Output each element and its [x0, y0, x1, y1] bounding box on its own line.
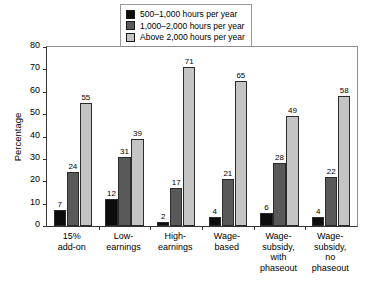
x-axis-tick: [254, 226, 255, 230]
legend-swatch-icon: [126, 10, 135, 19]
chart-legend: 500–1,000 hours per year1,000–2,000 hour…: [120, 4, 252, 47]
plot-frame: Percentage 72455123139217714216562849422…: [46, 46, 358, 227]
bar: [222, 179, 235, 226]
bar: [209, 217, 222, 226]
bar: [260, 213, 273, 226]
bar: [273, 163, 286, 226]
bar-value-label: 49: [282, 106, 303, 115]
y-axis-tick-label: 0: [18, 219, 40, 229]
bar: [170, 188, 183, 226]
x-axis-tick: [150, 226, 151, 230]
plot-area: 7245512313921771421656284942258: [47, 47, 357, 226]
bar: [80, 103, 93, 226]
x-axis-tick: [99, 226, 100, 230]
y-axis-tick-label: 10: [18, 197, 40, 207]
y-axis-tick-label: 30: [18, 152, 40, 162]
y-axis-tick: [43, 69, 47, 70]
bar: [183, 67, 196, 226]
bar: [105, 199, 118, 226]
legend-swatch-icon: [126, 21, 135, 30]
y-axis-tick: [43, 47, 47, 48]
bar: [338, 96, 351, 226]
bar: [118, 157, 131, 226]
y-axis-tick: [43, 114, 47, 115]
y-axis-tick-label: 70: [18, 62, 40, 72]
legend-swatch-icon: [126, 33, 135, 42]
legend-item: 1,000–2,000 hours per year: [126, 20, 245, 31]
y-axis-tick: [43, 92, 47, 93]
y-axis-tick: [43, 137, 47, 138]
y-axis-tick: [43, 159, 47, 160]
y-axis-tick-label: 50: [18, 107, 40, 117]
bar: [54, 210, 67, 226]
legend-item: Above 2,000 hours per year: [126, 32, 245, 43]
bar: [157, 222, 170, 226]
y-axis-tick: [43, 204, 47, 205]
bar: [286, 116, 299, 226]
x-axis-tick: [202, 226, 203, 230]
bar: [235, 81, 248, 226]
legend-item-label: 500–1,000 hours per year: [140, 9, 237, 19]
y-axis-tick: [43, 181, 47, 182]
bar: [312, 217, 325, 226]
x-axis-tick: [305, 226, 306, 230]
legend-item: 500–1,000 hours per year: [126, 9, 245, 20]
legend-item-label: 1,000–2,000 hours per year: [140, 21, 244, 31]
y-axis-tick-label: 60: [18, 85, 40, 95]
bar-chart: 500–1,000 hours per year1,000–2,000 hour…: [0, 0, 376, 293]
y-axis-tick-label: 80: [18, 40, 40, 50]
y-axis-tick: [43, 226, 47, 227]
bar-value-label: 58: [334, 86, 355, 95]
y-axis-tick-label: 40: [18, 130, 40, 140]
bar-value-label: 71: [179, 57, 200, 66]
bar-value-label: 39: [127, 129, 148, 138]
x-axis-category-label: Wage- subsidy, no phaseout: [298, 231, 362, 273]
legend-item-label: Above 2,000 hours per year: [140, 32, 245, 42]
bar-value-label: 55: [76, 93, 97, 102]
bar: [67, 172, 80, 226]
bar-value-label: 65: [231, 71, 252, 80]
y-axis-tick-label: 20: [18, 174, 40, 184]
bar: [131, 139, 144, 226]
bar: [325, 177, 338, 226]
